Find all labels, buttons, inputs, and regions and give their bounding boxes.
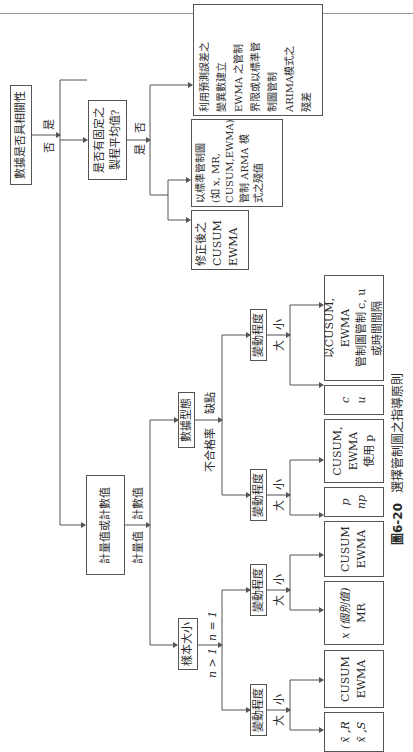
leaf-line: EWMA: [354, 530, 370, 569]
edge-label-defects: 缺點: [205, 392, 216, 414]
leaf-line: 制圖管制: [264, 72, 281, 112]
figure-title: 選擇管制圖之指導原則: [391, 373, 405, 493]
leaf-line: p: [338, 498, 354, 505]
leaf-line: 式之殘值: [252, 163, 267, 203]
leaf-line: 使用 p: [362, 435, 378, 468]
leaf-line: 界限或以標準管: [247, 42, 264, 112]
edge-label-variable: 計量值: [133, 531, 144, 564]
leaf-cusum-ewma-1: CUSUM EWMA: [324, 650, 384, 708]
leaf-cusum-ewma-2: CUSUM EWMA: [324, 521, 384, 577]
edge-label-small-4: 小: [274, 319, 285, 330]
figure-number: 圖6-20: [391, 503, 405, 545]
leaf-line: 管制 ARMA 模: [238, 134, 253, 203]
edge-label-fixed-yes: 是: [135, 144, 146, 155]
leaf-line: CUSUM: [338, 656, 354, 702]
node-data-type: 數據型態: [178, 392, 195, 448]
node-label: 樣本大小: [180, 622, 196, 666]
leaf-line: 以CUSUM, EWMA: [322, 279, 354, 377]
leaf-line: c: [338, 397, 354, 403]
edge-label-n-eq-1: n = 1: [207, 611, 218, 641]
edge-label-small-2: 小: [274, 574, 285, 585]
leaf-line: 以標準管制圖: [194, 143, 209, 203]
node-label: 計量值或計數值: [98, 487, 114, 564]
leaf-line: 殘差: [298, 92, 315, 112]
leaf-line: ARIMA模式之: [281, 46, 298, 112]
node-data-correlated: 數據是否具相關性: [10, 85, 32, 185]
node-label: 變動程度: [251, 568, 267, 612]
leaf-line: 變異數建立: [213, 62, 230, 112]
edge-label-root-no: 否: [44, 142, 55, 153]
edge-label-nonconforming: 不合格率: [205, 428, 216, 472]
node-fixed-process-mean: 是否有固定之製程平均值?: [88, 100, 127, 180]
leaf-line: 或時間間隔: [370, 301, 386, 356]
leaf-line: CUSUM,: [330, 426, 346, 475]
leaf-line: np: [354, 495, 370, 509]
leaf-cusum-ewma-c-u: 以CUSUM, EWMA 管制圖管制 c, u 或時間間隔: [324, 275, 384, 381]
leaf-line: 管制圖管制 c, u: [354, 289, 370, 368]
node-variation-3: 變動程度: [250, 469, 267, 521]
node-label: 數據型態: [179, 398, 195, 442]
leaf-line: CUSUM,EWMA): [223, 119, 238, 203]
edge-label-large-2: 大: [274, 595, 285, 606]
edge-label-root-yes: 是: [44, 119, 55, 130]
leaf-forecast-error-ewma: 利用預測誤差之 變異數建立 EWMA 之管制 界限或以標準管 制圖管制 ARIM…: [193, 4, 323, 116]
leaf-line: u: [354, 396, 370, 403]
leaf-line: CUSUM: [338, 526, 354, 572]
node-label: 變動程度: [251, 313, 267, 357]
node-variation-2: 變動程度: [250, 564, 267, 616]
node-sample-size: 樣本大小: [178, 618, 198, 670]
leaf-standard-chart-residuals: 以標準管制圖 (如 x, MR, CUSUM,EWMA) 管制 ARMA 模 式…: [191, 119, 283, 207]
leaf-xbar-r-s: x̄ ,R x̄ ,S: [324, 712, 384, 752]
leaf-p-np: p np: [324, 487, 384, 517]
leaf-cusum-ewma-p: CUSUM, EWMA 使用 p: [324, 419, 384, 483]
leaf-line: CUSUM: [210, 220, 226, 266]
leaf-line: EWMA: [226, 227, 242, 266]
edge-label-fixed-no: 否: [135, 122, 146, 133]
leaf-c-u: c u: [324, 385, 384, 415]
leaf-line: 利用預測誤差之: [196, 42, 213, 112]
edge-label-small-3: 小: [274, 479, 285, 490]
leaf-line: 修正後之: [194, 222, 210, 266]
leaf-line: x̄ ,S: [354, 722, 370, 743]
leaf-line: (如 x, MR,: [209, 153, 224, 203]
node-label: 數據是否具相關性: [13, 91, 29, 179]
leaf-line: MR: [354, 603, 370, 623]
node-label: 變動程度: [251, 473, 267, 517]
leaf-individual-mr: x (個別值) MR: [324, 581, 384, 645]
edge-label-n-gt-1: n > 1: [207, 648, 218, 678]
node-variation-1: 變動程度: [250, 684, 267, 736]
node-variable-or-attribute: 計量值或計數值: [86, 475, 125, 575]
leaf-line: x (個別值): [338, 587, 354, 638]
node-label: 變動程度: [251, 688, 267, 732]
leaf-modified-cusum-ewma: 修正後之 CUSUM EWMA: [191, 210, 249, 270]
leaf-line: EWMA 之管制: [230, 44, 247, 112]
edge-label-large-4: 大: [274, 340, 285, 351]
leaf-line: EWMA: [346, 432, 362, 471]
edge-label-large-3: 大: [274, 500, 285, 511]
edge-label-large-1: 大: [274, 715, 285, 726]
figure-caption: 圖6-20選擇管制圖之指導原則: [388, 373, 405, 545]
leaf-line: EWMA: [354, 660, 370, 699]
node-variation-4: 變動程度: [250, 309, 267, 361]
leaf-line: x̄ ,R: [338, 721, 354, 742]
node-label: 是否有固定之製程平均值?: [92, 104, 124, 176]
edge-label-attribute: 計數值: [133, 487, 144, 520]
edge-label-small-1: 小: [274, 694, 285, 705]
